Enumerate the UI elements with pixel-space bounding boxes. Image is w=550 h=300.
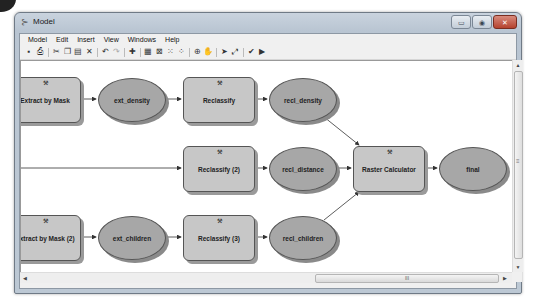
toolbar-separator — [216, 48, 217, 57]
scrollbar-corner — [512, 272, 522, 282]
tool-icon: ⚒ — [217, 217, 222, 224]
toolbar-separator — [124, 48, 125, 57]
delete-icon[interactable]: ✕ — [84, 47, 94, 57]
model-canvas[interactable]: ⚒ Extract by Mask ext_density ⚒ Reclassi… — [20, 60, 513, 273]
auto-layout-icon[interactable]: ▦ — [143, 47, 153, 57]
undo-icon[interactable]: ↶ — [100, 47, 110, 57]
process-reclassify-3[interactable]: ⚒ Reclassify (3) — [183, 215, 255, 261]
tool-icon: ⚒ — [217, 79, 222, 86]
vertical-scroll-thumb[interactable]: ≡ — [514, 71, 523, 259]
process-label: Extract by Mask — [20, 97, 70, 104]
data-label: ext_children — [113, 235, 151, 242]
data-label: recl_density — [284, 97, 322, 104]
vertical-scrollbar[interactable]: ▲ ≡ ▼ — [512, 60, 523, 272]
data-recl-distance[interactable]: recl_distance — [269, 147, 337, 191]
model-app-icon: ⊱ — [21, 18, 30, 27]
data-label: recl_distance — [282, 166, 324, 173]
maximize-button[interactable]: ◉ — [472, 15, 492, 29]
toolbar: ▪ ⎙ ✂ ❐ ▤ ✕ ↶ ↷ ✚ ▦ ⊠ ⁙ ⁘ ⊕ ✋ ➤ ⤢ ✔ ▶ — [20, 45, 516, 60]
process-reclassify[interactable]: ⚒ Reclassify — [183, 77, 255, 123]
data-recl-density[interactable]: recl_density — [269, 78, 337, 122]
scroll-grip: ≡ — [516, 158, 520, 164]
process-label: Reclassify — [203, 97, 235, 104]
menu-help[interactable]: Help — [161, 34, 184, 45]
desktop-decoration — [0, 0, 16, 12]
menu-windows[interactable]: Windows — [124, 34, 161, 45]
menu-view[interactable]: View — [100, 34, 124, 45]
add-data-icon[interactable]: ✚ — [127, 47, 137, 57]
paste-icon[interactable]: ▤ — [73, 47, 83, 57]
process-label: Reclassify (2) — [198, 166, 240, 173]
redo-icon[interactable]: ↷ — [111, 47, 121, 57]
scroll-right-arrow[interactable]: ▶ — [503, 275, 507, 281]
window-title: Model — [33, 17, 55, 26]
process-reclassify-2[interactable]: ⚒ Reclassify (2) — [183, 146, 255, 192]
print-icon[interactable]: ⎙ — [35, 47, 45, 57]
model-window: ⊱ Model ▭ ◉ ✕ Model Edit Insert View Win… — [14, 12, 522, 294]
process-label: Raster Calculator — [362, 166, 416, 173]
tool-icon: ⚒ — [217, 148, 222, 155]
data-recl-children[interactable]: recl_children — [269, 216, 337, 260]
save-icon[interactable]: ▪ — [24, 47, 34, 57]
cut-icon[interactable]: ✂ — [51, 47, 61, 57]
pan-icon[interactable]: ✋ — [203, 47, 213, 57]
scroll-down-arrow[interactable]: ▼ — [515, 264, 521, 270]
validate-icon[interactable]: ✔ — [246, 47, 256, 57]
menu-model[interactable]: Model — [24, 34, 52, 45]
zoom-in-icon[interactable]: ⊕ — [192, 47, 202, 57]
process-raster-calculator[interactable]: ⚒ Raster Calculator — [353, 146, 425, 192]
menu-edit[interactable]: Edit — [52, 34, 73, 45]
toolbar-separator — [140, 48, 141, 57]
fixed-zoom-in-icon[interactable]: ⁙ — [165, 47, 175, 57]
toolbar-separator — [189, 48, 190, 57]
menu-insert[interactable]: Insert — [73, 34, 100, 45]
window-controls: ▭ ◉ ✕ — [451, 15, 517, 29]
close-button[interactable]: ✕ — [493, 15, 517, 29]
process-label: Reclassify (3) — [198, 235, 240, 242]
horizontal-scrollbar[interactable]: ◀ III ▶ — [20, 272, 512, 283]
data-ext-children[interactable]: ext_children — [98, 216, 166, 260]
scroll-up-arrow[interactable]: ▲ — [515, 62, 521, 68]
select-icon[interactable]: ➤ — [219, 47, 229, 57]
horizontal-scroll-thumb[interactable]: III — [315, 274, 499, 283]
menu-bar: Model Edit Insert View Windows Help — [20, 34, 516, 45]
full-extent-icon[interactable]: ⊠ — [154, 47, 164, 57]
data-label: ext_density — [114, 97, 150, 104]
connect-icon[interactable]: ⤢ — [230, 47, 240, 57]
data-label: recl_children — [283, 235, 323, 242]
data-final[interactable]: final — [439, 147, 507, 191]
process-extract-by-mask[interactable]: ⚒ Extract by Mask — [20, 77, 81, 123]
minimize-button[interactable]: ▭ — [451, 15, 471, 29]
tool-icon: ⚒ — [387, 148, 392, 155]
window-client: Model Edit Insert View Windows Help ▪ ⎙ … — [19, 33, 517, 289]
fixed-zoom-out-icon[interactable]: ⁘ — [176, 47, 186, 57]
process-extract-by-mask-2[interactable]: ⚒ Extract by Mask (2) — [20, 215, 81, 261]
toolbar-separator — [97, 48, 98, 57]
run-icon[interactable]: ▶ — [257, 47, 267, 57]
data-ext-density[interactable]: ext_density — [98, 78, 166, 122]
process-label: Extract by Mask (2) — [20, 235, 75, 242]
tool-icon: ⚒ — [43, 217, 48, 224]
tool-icon: ⚒ — [43, 79, 48, 86]
title-bar[interactable]: ⊱ Model ▭ ◉ ✕ — [15, 13, 521, 33]
copy-icon[interactable]: ❐ — [62, 47, 72, 57]
data-label: final — [466, 166, 479, 173]
scroll-left-arrow[interactable]: ◀ — [23, 275, 27, 281]
toolbar-separator — [243, 48, 244, 57]
toolbar-separator — [48, 48, 49, 57]
